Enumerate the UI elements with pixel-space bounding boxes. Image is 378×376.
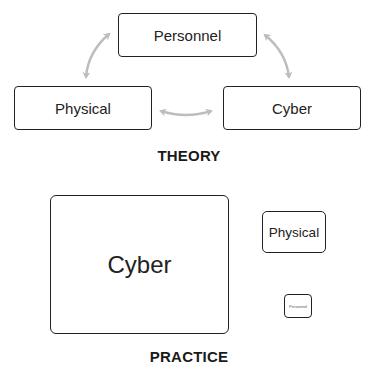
theory-node-physical-label: Physical [55,100,111,117]
arrow-physical-cyber [161,111,211,115]
theory-node-cyber: Cyber [223,86,361,130]
theory-caption: THEORY [0,147,378,164]
practice-node-personnel: Personnel [284,294,312,318]
theory-node-personnel-label: Personnel [154,27,222,44]
practice-node-physical: Physical [262,211,326,253]
theory-node-physical: Physical [14,86,152,130]
practice-node-cyber: Cyber [50,195,229,334]
practice-node-cyber-label: Cyber [107,251,171,279]
theory-node-cyber-label: Cyber [272,100,312,117]
arrow-personnel-physical [86,34,109,77]
practice-caption: PRACTICE [0,348,378,365]
practice-node-personnel-label: Personnel [289,304,307,309]
arrow-personnel-cyber [265,35,289,77]
theory-node-personnel: Personnel [118,13,257,57]
practice-node-physical-label: Physical [269,225,319,240]
